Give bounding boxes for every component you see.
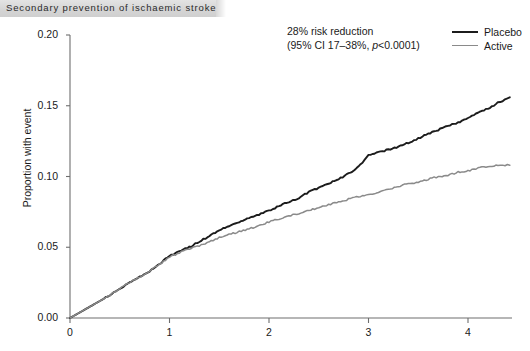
y-axis-label: Proportion with event [21,88,33,228]
y-tick-label: 0.05 [18,240,58,252]
legend-line-placebo-icon [452,31,478,33]
x-tick-label: 0 [60,326,80,338]
x-axis-ticks [70,318,468,323]
chart-series-group [70,97,510,318]
chart-svg [0,0,530,351]
x-tick-label: 4 [458,326,478,338]
chart-annotation: 28% risk reduction (95% CI 17–38%, p<0.0… [287,24,420,52]
annotation-p-value: <0.0001) [378,39,420,51]
legend-item-placebo: Placebo [452,24,522,38]
series-line-placebo [70,97,510,318]
legend-label-active: Active [484,40,513,52]
y-tick-label: 0.20 [18,28,58,40]
x-tick-label: 2 [259,326,279,338]
y-tick-label: 0.00 [18,311,58,323]
x-tick-label: 3 [359,326,379,338]
x-tick-label: 1 [160,326,180,338]
y-axis-ticks [66,35,70,318]
legend-item-active: Active [452,38,522,52]
chart-container: 0.000.050.100.150.20 01234 Proportion wi… [0,0,530,351]
annotation-line-2: (95% CI 17–38%, p<0.0001) [287,38,420,52]
chart-legend: Placebo Active [452,24,522,52]
annotation-line-1: 28% risk reduction [287,24,420,38]
legend-label-placebo: Placebo [484,26,522,38]
series-line-active [70,165,510,318]
legend-line-active-icon [452,45,478,46]
annotation-ci-prefix: (95% CI 17–38%, [287,39,372,51]
